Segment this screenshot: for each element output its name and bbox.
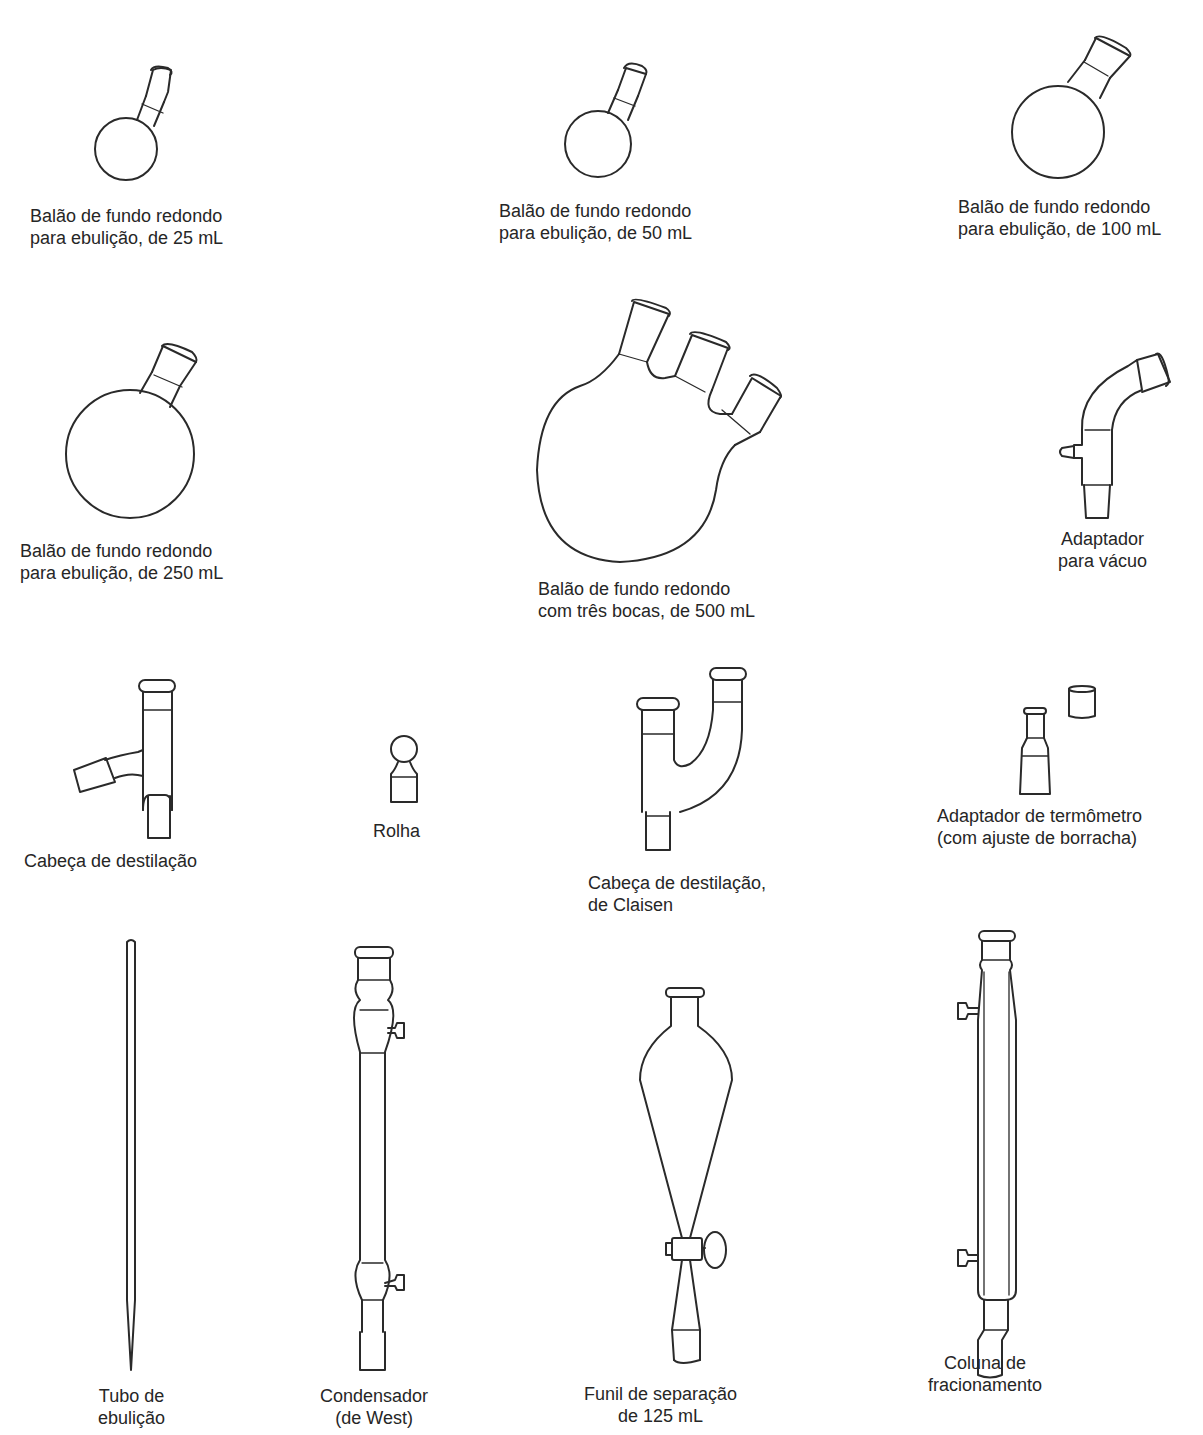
item-label: Cabeça de destilação, de Claisen: [588, 872, 766, 916]
item-boiling-tube: Tubo de ebulição: [60, 920, 210, 1435]
item-claisen-head: Cabeça de destilação, de Claisen: [560, 660, 820, 920]
separatory-funnel-icon: [560, 970, 810, 1435]
item-flask-three-neck-500: Balão de fundo redondo com três bocas, d…: [480, 290, 820, 630]
item-label: Tubo de ebulição: [98, 1385, 165, 1429]
item-label: Balão de fundo redondo para ebulição, de…: [958, 196, 1161, 240]
item-vacuum-adapter: Adaptador para vácuo: [1000, 330, 1203, 590]
item-label: Condensador (de West): [320, 1385, 428, 1429]
distillation-head-icon: [0, 660, 300, 880]
item-label: Funil de separação de 125 mL: [584, 1383, 737, 1427]
item-label: Balão de fundo redondo para ebulição, de…: [20, 540, 223, 584]
item-distillation-head: Cabeça de destilação: [0, 660, 300, 880]
boiling-tube-icon: [60, 920, 210, 1435]
item-west-condenser: Condensador (de West): [280, 920, 480, 1435]
item-fractionating-column: Coluna de fracionamento: [920, 920, 1070, 1435]
item-label: Balão de fundo redondo com três bocas, d…: [538, 578, 755, 622]
item-thermometer-adapter: Adaptador de termômetro (com ajuste de b…: [900, 640, 1203, 880]
item-separatory-funnel: Funil de separação de 125 mL: [560, 970, 810, 1435]
round-bottom-flask-icon: [940, 20, 1203, 280]
item-flask-25: Balão de fundo redondo para ebulição, de…: [0, 0, 300, 260]
item-stopper: Rolha: [340, 730, 480, 850]
item-label: Cabeça de destilação: [24, 850, 197, 872]
item-label: Balão de fundo redondo para ebulição, de…: [30, 205, 223, 249]
item-label: Balão de fundo redondo para ebulição, de…: [499, 200, 692, 244]
item-label: Rolha: [373, 820, 420, 842]
item-flask-100: Balão de fundo redondo para ebulição, de…: [940, 20, 1203, 280]
item-label: Adaptador para vácuo: [1058, 528, 1147, 572]
item-flask-250: Balão de fundo redondo para ebulição, de…: [0, 320, 280, 600]
item-label: Adaptador de termômetro (com ajuste de b…: [937, 805, 1142, 849]
condenser-icon: [280, 920, 480, 1435]
item-flask-50: Balão de fundo redondo para ebulição, de…: [480, 40, 780, 260]
item-label: Coluna de fracionamento: [928, 1352, 1042, 1396]
